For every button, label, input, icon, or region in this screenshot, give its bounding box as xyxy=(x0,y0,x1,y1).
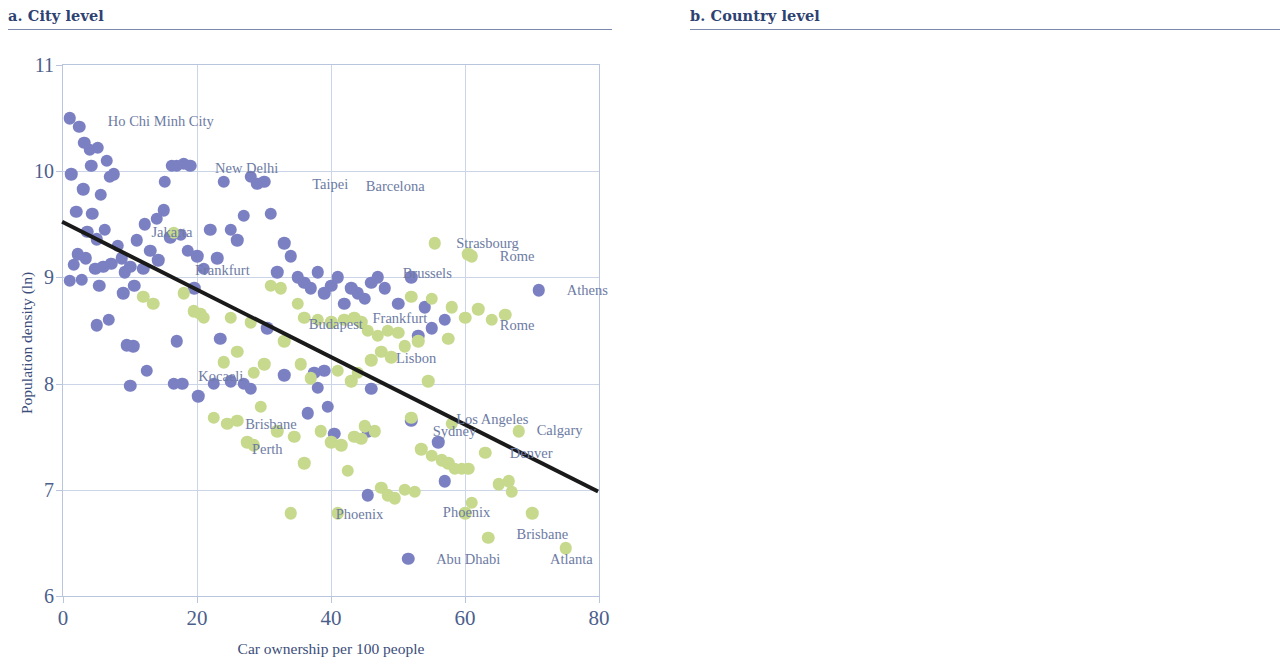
data-point-blue xyxy=(70,205,83,218)
data-point-blue xyxy=(76,273,89,286)
data-point-blue xyxy=(285,250,298,263)
data-point-blue xyxy=(120,339,133,352)
point-label: Sydney xyxy=(433,423,477,440)
data-point-blue xyxy=(214,333,227,346)
data-point-blue xyxy=(124,379,137,392)
data-point-blue xyxy=(231,234,244,247)
point-label: Lisbon xyxy=(396,350,436,367)
data-point-green xyxy=(405,411,418,424)
data-point-green xyxy=(177,287,190,300)
point-label: Budapest xyxy=(309,316,363,333)
x-tick-mark xyxy=(197,596,198,603)
data-point-blue xyxy=(238,210,251,223)
data-point-blue xyxy=(159,176,172,189)
data-point-blue xyxy=(358,292,371,305)
panel-a-title-rule xyxy=(8,29,612,30)
data-point-green xyxy=(315,425,328,438)
point-label: Kocaeli xyxy=(198,368,243,385)
data-point-blue xyxy=(278,369,291,382)
data-point-blue xyxy=(141,365,154,378)
data-point-blue xyxy=(130,234,143,247)
data-point-blue xyxy=(402,553,415,566)
x-tick-mark xyxy=(599,596,600,603)
y-tick-label: 9 xyxy=(44,266,54,289)
data-point-blue xyxy=(321,401,334,414)
y-tick-mark xyxy=(56,384,63,385)
y-tick-label: 7 xyxy=(44,478,54,501)
data-point-green xyxy=(425,292,438,305)
point-label: Denver xyxy=(510,444,553,461)
data-point-green xyxy=(254,401,267,414)
data-point-green xyxy=(506,486,519,499)
point-label: Calgary xyxy=(537,422,583,439)
data-point-green xyxy=(429,237,442,250)
point-label: Perth xyxy=(252,441,283,458)
panel-country-level: b. Country level 67891011020406080Vietna… xyxy=(640,0,1280,667)
point-label: Ho Chi Minh City xyxy=(108,113,214,130)
data-point-blue xyxy=(157,204,170,217)
data-point-green xyxy=(482,531,495,544)
y-tick-label: 8 xyxy=(44,372,54,395)
x-tick-mark xyxy=(331,596,332,603)
data-point-blue xyxy=(365,383,378,396)
point-label: Brisbane xyxy=(517,526,569,543)
y-tick-mark xyxy=(56,65,63,66)
data-point-green xyxy=(342,464,355,477)
y-tick-label: 6 xyxy=(44,585,54,608)
data-point-green xyxy=(442,333,455,346)
point-label: Barcelona xyxy=(366,178,425,195)
data-point-green xyxy=(392,326,405,339)
data-point-green xyxy=(298,457,311,470)
data-point-green xyxy=(305,372,318,385)
data-point-blue xyxy=(244,383,257,396)
data-point-blue xyxy=(86,207,99,220)
data-point-green xyxy=(258,358,271,371)
data-point-blue xyxy=(218,176,231,189)
data-point-blue xyxy=(65,168,78,181)
data-point-blue xyxy=(67,258,80,271)
data-point-blue xyxy=(318,365,331,378)
data-point-blue xyxy=(176,377,189,390)
data-point-green xyxy=(224,312,237,325)
y-tick-label: 11 xyxy=(35,54,54,77)
data-point-green xyxy=(285,507,298,520)
data-point-blue xyxy=(117,287,130,300)
data-point-blue xyxy=(108,168,121,181)
data-point-green xyxy=(472,303,485,316)
data-point-green xyxy=(409,486,422,499)
data-point-blue xyxy=(532,284,545,297)
x-tick-mark xyxy=(465,596,466,603)
data-point-blue xyxy=(311,266,324,279)
data-point-blue xyxy=(93,280,106,293)
gridline-vertical xyxy=(197,65,198,596)
data-point-blue xyxy=(90,319,103,332)
data-point-blue xyxy=(305,282,318,295)
data-point-green xyxy=(405,290,418,303)
data-point-blue xyxy=(331,271,344,284)
x-tick-label: 80 xyxy=(589,606,610,631)
plot-area-city-level: 67891011020406080Ho Chi Minh CityNew Del… xyxy=(62,64,600,597)
x-axis-title-city: Car ownership per 100 people xyxy=(62,640,600,658)
data-point-green xyxy=(291,298,304,311)
point-label: Atlanta xyxy=(550,550,593,567)
data-point-green xyxy=(479,446,492,459)
data-point-green xyxy=(335,439,348,452)
data-point-blue xyxy=(278,237,291,250)
point-label: Taipei xyxy=(312,175,348,192)
data-point-blue xyxy=(85,160,98,173)
panel-b-title: b. Country level xyxy=(690,7,820,24)
data-point-blue xyxy=(77,183,90,196)
point-label: New Delhi xyxy=(215,160,278,177)
data-point-green xyxy=(295,358,308,371)
data-point-blue xyxy=(94,188,107,201)
data-point-green xyxy=(231,415,244,428)
y-tick-mark xyxy=(56,171,63,172)
y-tick-mark xyxy=(56,277,63,278)
data-point-green xyxy=(231,345,244,358)
data-point-green xyxy=(275,282,288,295)
data-point-green xyxy=(462,462,475,475)
point-label: Brussels xyxy=(403,265,452,282)
data-point-blue xyxy=(192,390,205,403)
data-point-green xyxy=(208,411,221,424)
data-point-blue xyxy=(439,475,452,488)
